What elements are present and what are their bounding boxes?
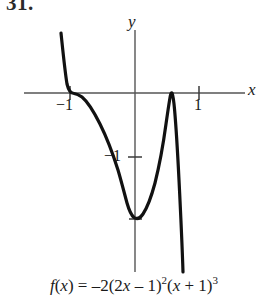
- x-tick-label-neg-one: −1: [56, 96, 73, 114]
- function-curve: [61, 33, 183, 272]
- x-tick-label-pos-one: 1: [194, 96, 202, 114]
- y-tick-label-neg-one: −1: [104, 147, 121, 165]
- equation-inner-rest: – 1): [130, 276, 161, 295]
- equation-coefficient: –2(2: [92, 276, 123, 295]
- equation-exponent-three: 3: [213, 274, 219, 286]
- equation-second-rest: + 1): [180, 276, 212, 295]
- equation-equals: =: [74, 276, 92, 295]
- x-axis-label: x: [248, 80, 256, 100]
- plot-area: y x −1 1 −1: [0, 0, 268, 275]
- figure-container: 31. y x −1 1 −1 f(x) = –2(2x – 1)2(x + 1…: [0, 0, 268, 307]
- equation-caption: f(x) = –2(2x – 1)2(x + 1)3: [0, 276, 268, 296]
- y-axis-label: y: [128, 12, 136, 32]
- equation-lhs-var: x: [60, 276, 68, 295]
- graph-svg: [0, 0, 268, 275]
